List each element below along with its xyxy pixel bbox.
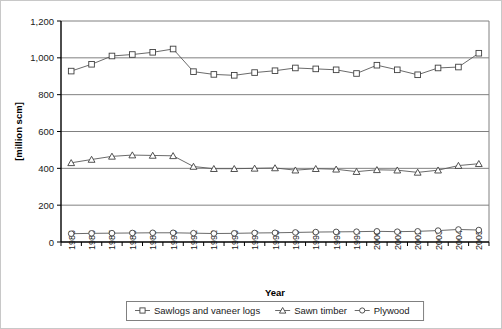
legend: Sawlogs and vaneer logsSawn timberPlywoo… — [127, 302, 424, 321]
legend-label: Plywood — [374, 305, 410, 316]
marker-square — [191, 69, 197, 75]
y-tick-label: 800 — [38, 89, 54, 100]
marker-circle — [313, 229, 319, 235]
y-axis-title: [million scm] — [13, 102, 24, 161]
image-border — [1, 1, 502, 329]
marker-circle — [354, 229, 360, 235]
y-tick-label: 600 — [38, 126, 54, 137]
marker-circle — [191, 230, 197, 236]
gridlines — [61, 58, 489, 205]
y-tick-label: 200 — [38, 200, 54, 211]
series-1 — [68, 46, 481, 78]
marker-circle — [360, 308, 365, 313]
marker-circle — [211, 231, 217, 237]
marker-square — [272, 68, 278, 74]
marker-circle — [415, 229, 421, 235]
marker-square — [109, 53, 115, 59]
line-chart: 02004006008001,0001,20019851986198719881… — [0, 0, 502, 329]
marker-square — [394, 67, 400, 73]
marker-square — [252, 70, 258, 76]
marker-circle — [374, 229, 380, 235]
legend-label: Sawn timber — [294, 305, 347, 316]
series-2 — [68, 152, 482, 175]
marker-circle — [476, 227, 482, 233]
marker-square — [415, 72, 421, 78]
marker-square — [456, 64, 462, 70]
marker-square — [231, 73, 237, 79]
marker-circle — [394, 229, 400, 235]
marker-circle — [333, 229, 339, 235]
marker-square — [476, 50, 482, 56]
marker-circle — [456, 227, 462, 233]
marker-circle — [435, 228, 441, 234]
legend-label: Sawlogs and vaneer logs — [154, 305, 260, 316]
marker-circle — [252, 230, 258, 236]
marker-square — [130, 52, 136, 58]
marker-circle — [170, 230, 176, 236]
chart-container: 02004006008001,0001,20019851986198719881… — [0, 0, 502, 329]
marker-square — [211, 72, 217, 78]
marker-square — [354, 71, 360, 77]
marker-square — [68, 68, 74, 74]
y-tick-label: 400 — [38, 163, 54, 174]
marker-circle — [150, 230, 156, 236]
marker-square — [293, 65, 299, 71]
marker-circle — [89, 231, 95, 237]
y-axis-ticks: 02004006008001,0001,200 — [30, 16, 61, 248]
marker-circle — [231, 231, 237, 237]
legend-item-1[interactable]: Sawlogs and vaneer logs — [135, 305, 260, 316]
marker-circle — [272, 230, 278, 236]
marker-circle — [68, 231, 74, 237]
y-tick-label: 1,200 — [30, 16, 54, 27]
marker-square — [435, 65, 441, 71]
y-tick-label: 0 — [49, 237, 54, 248]
marker-circle — [293, 230, 299, 236]
y-tick-label: 1,000 — [30, 52, 54, 63]
marker-circle — [130, 230, 136, 236]
marker-square — [150, 50, 156, 56]
marker-square — [170, 46, 176, 52]
marker-triangle — [190, 163, 197, 169]
x-axis-title: Year — [265, 287, 285, 298]
marker-square — [140, 308, 145, 313]
marker-square — [89, 61, 95, 67]
marker-circle — [109, 230, 115, 236]
x-tick-label: 2004 — [454, 230, 464, 250]
marker-square — [374, 62, 380, 68]
marker-square — [313, 66, 319, 72]
marker-square — [333, 67, 339, 73]
